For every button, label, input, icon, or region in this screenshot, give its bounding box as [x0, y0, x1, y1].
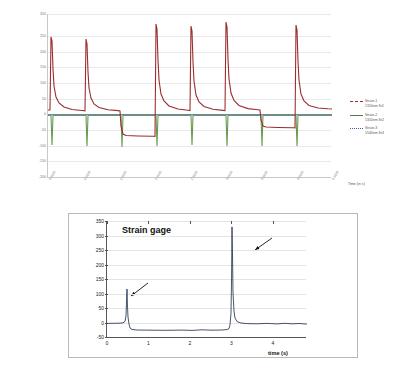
legend-sub-strain-1: 1310nm Sr1	[365, 104, 384, 109]
legend-item-strain-1[interactable]: Strain-1 1310nm Sr1	[350, 99, 384, 109]
y-tick-label: 250	[96, 247, 104, 253]
y-tick-label: 200	[40, 50, 46, 54]
x-tick-label: 0	[106, 340, 109, 346]
y-tick-label: -200	[39, 175, 46, 179]
legend-label-strain-1: Strain-1 1310nm Sr1	[365, 99, 384, 109]
y-tick-label: 320	[40, 12, 46, 16]
x-tick-label: 2	[189, 340, 192, 346]
y-tick-label: 300	[96, 233, 104, 239]
legend-item-strain-3[interactable]: Strain-3 1540nm Sr3	[350, 126, 384, 136]
bottom-chart-series-svg	[107, 221, 307, 338]
y-tick-label: 50	[42, 97, 46, 101]
y-tick-label: 250	[40, 34, 46, 38]
x-tick-label: 4	[271, 340, 274, 346]
y-tick-label: 0	[101, 320, 104, 326]
x-tick-label: 3	[230, 340, 233, 346]
bottom-chart-figure: Strain gage µstrain time (s) single wide…	[0, 205, 420, 389]
x-tick-label: 4.5000	[331, 170, 340, 181]
legend-swatch-strain-3-icon	[350, 126, 363, 131]
legend-swatch-strain-2-icon	[350, 113, 363, 118]
bottom-chart-plot-area: 350 300 250 200 150 100 50 0 -50 0 1 2 3…	[106, 221, 306, 338]
legend-sub-strain-2: 1310nm Sr2	[365, 118, 384, 123]
series-strain-2-path	[48, 116, 332, 148]
top-chart-legend: Strain-1 1310nm Sr1 Strain-2 1310nm Sr2	[350, 99, 384, 140]
top-chart-figure: Fiber optics sensor-enabled geotextile S…	[0, 0, 420, 202]
legend-sub-strain-3: 1540nm Sr3	[365, 131, 384, 136]
legend-label-strain-2: Strain-2 1310nm Sr2	[365, 113, 384, 123]
top-chart-series-svg	[48, 14, 332, 178]
y-tick-label: 100	[96, 291, 104, 297]
y-tick-label: 100	[40, 81, 46, 85]
series-strain-1-path	[48, 22, 332, 136]
y-tick-label: 50	[98, 305, 104, 311]
top-chart-x-axis-label: Time (in s)	[348, 182, 365, 186]
legend-swatch-strain-1-icon	[350, 99, 363, 104]
legend-label-strain-3: Strain-3 1540nm Sr3	[365, 126, 384, 136]
top-chart-plot-area: 320 250 200 150 100 50 0 -50 -100 -150 -…	[47, 14, 331, 178]
y-tick-label: 150	[96, 276, 104, 282]
y-tick-label: 350	[96, 218, 104, 224]
y-tick-label: 200	[96, 262, 104, 268]
y-tick-label: -100	[39, 144, 46, 148]
legend-item-strain-2[interactable]: Strain-2 1310nm Sr2	[350, 113, 384, 123]
y-tick-label: -50	[97, 334, 104, 340]
x-tick-label: 1	[147, 340, 150, 346]
y-tick-label: -150	[39, 159, 46, 163]
y-tick-label: 150	[40, 65, 46, 69]
y-tick-label: -50	[41, 128, 46, 132]
figure-page: Fiber optics sensor-enabled geotextile S…	[0, 0, 420, 389]
y-tick-label: 0	[44, 112, 46, 116]
series-strain-gage-path	[107, 227, 307, 331]
